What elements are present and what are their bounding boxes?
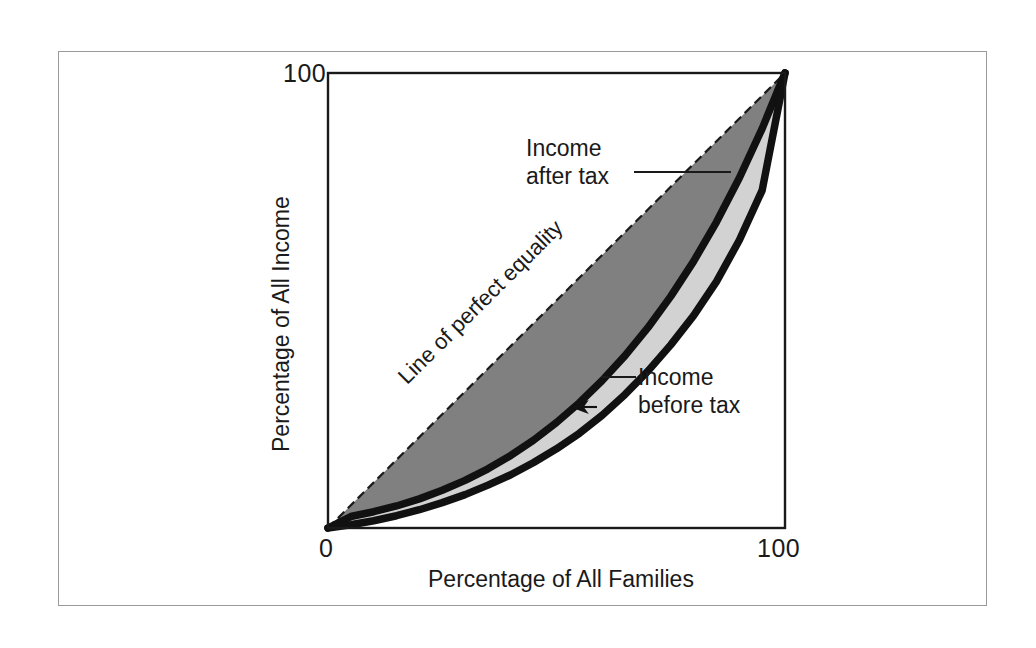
x-axis-tick-100: 100 (757, 534, 800, 563)
annotation-income-after-tax-line1: Income (526, 134, 609, 162)
x-axis-tick-0: 0 (319, 534, 333, 563)
annotation-income-before-tax-line2: before tax (638, 391, 740, 419)
annotation-income-before-tax-line1: Income (638, 363, 740, 391)
y-axis-title: Percentage of All Income (268, 196, 295, 452)
x-axis-title: Percentage of All Families (428, 566, 694, 593)
y-axis-tick-100: 100 (283, 59, 326, 88)
annotation-income-after-tax-line2: after tax (526, 162, 609, 190)
lorenz-curve-plot (0, 0, 1036, 648)
figure-container: 100 0 100 Percentage of All Income Perce… (0, 0, 1036, 648)
annotation-income-before-tax: Income before tax (638, 363, 740, 419)
annotation-income-after-tax: Income after tax (526, 134, 609, 190)
